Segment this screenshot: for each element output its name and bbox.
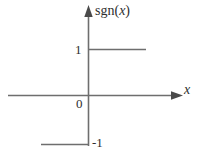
y-axis-label-fn: sgn(	[95, 3, 119, 18]
y-tick-label-minus-1: -1	[92, 136, 103, 149]
y-axis-label-paren: )	[125, 3, 130, 18]
x-axis-label: x	[184, 83, 190, 97]
y-tick-label-1: 1	[75, 43, 82, 56]
x-axis-arrowhead	[171, 91, 183, 99]
y-axis-arrowhead	[84, 5, 92, 17]
y-axis-label: sgn(x)	[95, 4, 130, 18]
origin-label-0: 0	[76, 97, 83, 110]
sgn-function-graph: sgn(x) x 1 0 -1	[0, 0, 204, 158]
